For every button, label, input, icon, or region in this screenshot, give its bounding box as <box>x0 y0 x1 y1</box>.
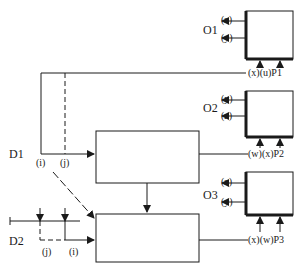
output-label-o3: O3 <box>203 189 218 201</box>
o2-output-y: (y) <box>221 94 233 104</box>
d2-tag-i: (i) <box>69 247 78 257</box>
o2-input-row: (w)(x)P2 <box>248 149 284 159</box>
d2-tag-j: (j) <box>42 247 51 257</box>
d1-tag-j: (j) <box>60 158 69 168</box>
o3-output-y: (y) <box>221 197 233 207</box>
output-label-o2: O2 <box>203 102 218 114</box>
o1-output-z: (z) <box>221 15 232 25</box>
o2-output-z: (z) <box>221 111 232 121</box>
o3-output-z: (z) <box>221 177 232 187</box>
flow-diagram <box>0 0 304 274</box>
d1-tag-i: (i) <box>36 158 45 168</box>
process-box-lower <box>96 214 248 262</box>
o3-input-row: (x)(w)P3 <box>248 235 284 245</box>
output-label-o1: O1 <box>203 24 218 36</box>
o1-input-row: (x)(u)P1 <box>248 68 282 78</box>
decision-label-d2: D2 <box>9 235 24 247</box>
decision-label-d1: D1 <box>9 148 24 160</box>
o1-output-y: (y) <box>221 33 233 43</box>
